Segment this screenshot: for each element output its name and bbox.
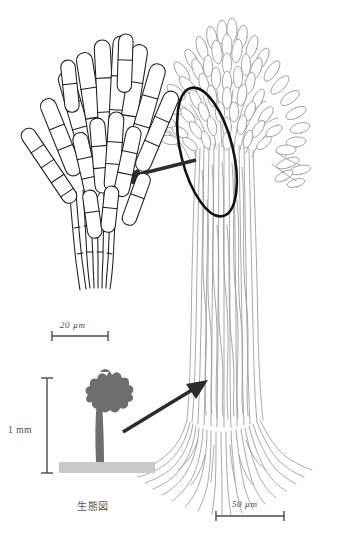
habit-head — [86, 369, 134, 412]
magnified-conidiophore-detail — [18, 34, 181, 290]
scalebar-habit — [41, 378, 53, 473]
scalebar-detail — [52, 331, 108, 341]
synnema-base-rhizoids — [132, 420, 312, 515]
scalebar-detail-label: 20 µm — [60, 320, 85, 330]
illustration-canvas — [0, 0, 340, 533]
habit-arrow — [123, 380, 208, 432]
substrate-band — [59, 462, 155, 473]
scalebar-main — [216, 511, 284, 521]
scalebar-habit-label: 1 mm — [8, 425, 32, 435]
scientific-illustration-figure: 20 µm 50 µm 1 mm 生態図 — [0, 0, 340, 533]
habit-diagram-caption: 生態図 — [77, 498, 109, 513]
scalebar-main-label: 50 µm — [232, 499, 257, 509]
